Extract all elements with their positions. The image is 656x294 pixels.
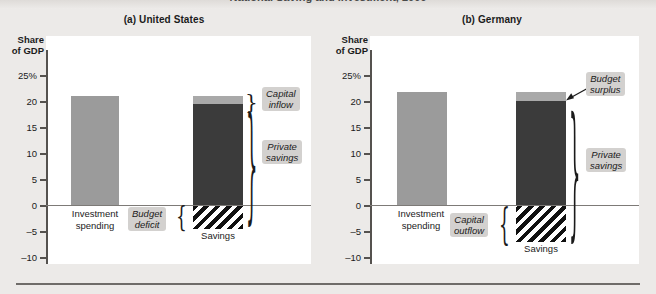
truncated-caption-strip: National Saving and Investment, 2006 [0,0,656,9]
callout-budget-surplus-line2-de: surplus [590,84,621,95]
y-ticklabel-neg10-de: –10 [328,252,361,263]
callout-budget-surplus-line1-de: Budget [590,73,621,84]
callout-budget-deficit-line1-us: Budget [132,208,162,219]
y-axis-title-line1-us: Share [2,34,44,45]
y-axis-title-de: Share of GDP [328,34,368,56]
y-tick-25-us [40,75,46,77]
bar-label-line2-investment-us: spending [56,220,134,232]
y-ticklabel-neg10-us: –10 [0,252,37,263]
y-ticklabel-0-de: 0 [328,200,361,211]
y-axis-line-us [46,50,48,264]
callout-private-savings-line1-us: Private [266,141,298,152]
y-tick-25-de [364,75,370,77]
bar-segment-budget-surplus-de [516,92,566,101]
callout-private-savings-line1-de: Private [590,149,622,160]
y-ticklabel-20-us: 20 [0,96,37,107]
callout-private-savings-line2-de: savings [590,160,622,171]
y-tick-5-de [364,179,370,181]
bar-segment-capital-outflow-de [516,206,566,242]
y-tick-neg10-us [40,257,46,259]
y-axis-title-line1-de: Share [328,34,368,45]
y-ticklabel-25-de: 25% [328,70,361,81]
callout-private-savings-us: Private savings [262,140,302,164]
figure-national-saving-investment: National Saving and Investment, 2006 (a)… [0,0,656,294]
y-tick-neg10-de [364,257,370,259]
y-ticklabel-5-de: 5 [328,174,361,185]
brace-private-savings-de: } [569,100,580,244]
y-axis-title-line2-us: of GDP [2,45,44,56]
y-ticklabel-15-us: 15 [0,122,37,133]
y-axis-line-de [370,50,372,264]
brace-budget-deficit-us: { [176,204,187,231]
y-tick-10-de [364,153,370,155]
bar-label-line1-investment-us: Investment [56,208,134,220]
truncated-caption-text: National Saving and Investment, 2006 [0,0,656,3]
y-ticklabel-10-us: 10 [0,148,37,159]
bar-label-savings-de: Savings [511,243,571,255]
panel-united-states: (a) United States Share of GDP 25% 20 15… [0,14,328,264]
y-axis-title-us: Share of GDP [2,34,44,56]
y-ticklabel-15-de: 15 [328,122,361,133]
bar-investment-spending-us [71,96,119,205]
y-ticklabel-5-us: 5 [0,174,37,185]
y-ticklabel-25-us: 25% [0,70,37,81]
y-tick-20-us [40,101,46,103]
y-ticklabel-10-de: 10 [328,148,361,159]
y-ticklabel-neg5-de: –5 [328,226,361,237]
callout-capital-inflow-line1-us: Capital [266,88,296,99]
bar-segment-capital-inflow-us [193,96,243,104]
callout-budget-deficit-line2-us: deficit [132,219,162,230]
panel-title-de: (b) Germany [328,14,656,25]
y-tick-10-us [40,153,46,155]
panel-germany: (b) Germany Share of GDP 25% 20 15 10 5 … [328,14,656,264]
callout-private-savings-de: Private savings [586,148,626,172]
bar-label-savings-us: Savings [188,230,248,242]
bar-label-line1-investment-de: Investment [382,208,460,220]
panel-title-us: (a) United States [0,14,328,25]
brace-capital-outflow-de: { [499,204,510,247]
callout-capital-outflow-line1-de: Capital [454,214,484,225]
y-tick-5-us [40,179,46,181]
y-tick-20-de [364,101,370,103]
callout-capital-inflow-line2-us: inflow [266,99,296,110]
bar-segment-private-savings-de [516,101,566,205]
y-ticklabel-neg5-us: –5 [0,226,37,237]
bar-segment-budget-deficit-us [193,206,243,229]
footer-divider [16,283,640,285]
callout-budget-surplus-de: Budget surplus [586,72,625,96]
bar-label-investment-spending-de: Investment spending [382,208,460,231]
callout-capital-outflow-line2-de: outflow [454,225,484,236]
callout-capital-inflow-us: Capital inflow [262,87,300,111]
y-tick-neg5-de [364,231,370,233]
bar-investment-spending-de [397,92,447,205]
y-tick-15-us [40,127,46,129]
y-tick-15-de [364,127,370,129]
y-ticklabel-0-us: 0 [0,200,37,211]
callout-private-savings-line2-us: savings [266,152,298,163]
bar-label-line2-investment-de: spending [382,220,460,232]
y-ticklabel-20-de: 20 [328,96,361,107]
brace-private-savings-us: } [246,102,257,228]
bar-label-investment-spending-us: Investment spending [56,208,134,231]
bar-segment-private-savings-us [193,104,243,205]
callout-capital-outflow-de: Capital outflow [450,213,488,237]
y-tick-neg5-us [40,231,46,233]
y-axis-title-line2-de: of GDP [328,45,368,56]
callout-budget-deficit-us: Budget deficit [128,207,166,231]
